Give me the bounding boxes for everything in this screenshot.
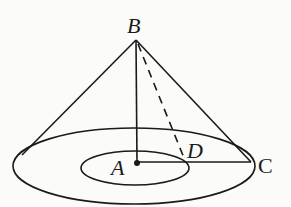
cone-diagram: B A D C (0, 0, 291, 207)
point-A-dot (134, 160, 140, 166)
label-B: B (127, 13, 140, 38)
dashed-BD (138, 44, 184, 158)
label-A: A (109, 155, 125, 180)
outer-base-ellipse (13, 128, 255, 204)
label-C: C (258, 153, 273, 178)
height-BA (136, 40, 137, 163)
inner-ellipse (81, 151, 189, 185)
slant-left (22, 40, 136, 155)
label-D: D (186, 138, 203, 163)
